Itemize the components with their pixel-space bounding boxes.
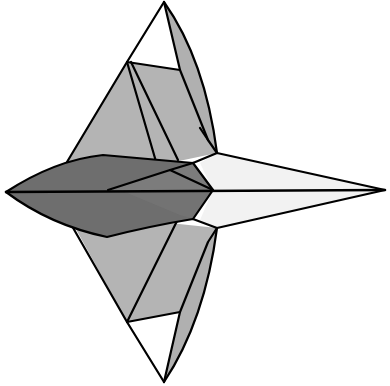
bottom-flap — [72, 215, 217, 382]
origami-figure — [0, 0, 390, 386]
top-flap — [67, 2, 217, 165]
diagram-canvas: Origami-style star / dart fold diagram F… — [0, 0, 390, 386]
